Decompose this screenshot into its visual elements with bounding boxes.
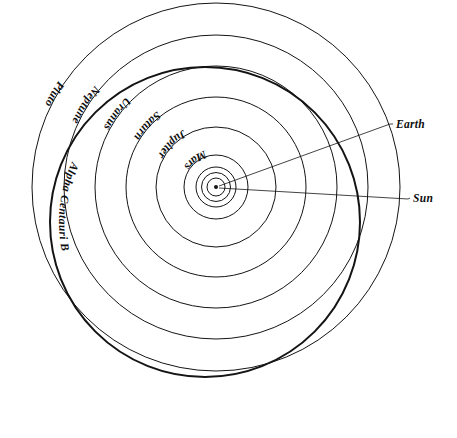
orbit-diagram: MarsJupiterSaturnUranusNeptunePlutoAlpha… — [0, 0, 457, 438]
earth-callout-label: Earth — [395, 118, 425, 130]
orbit-label-alpha-centauri-b: Alpha Centauri B — [57, 160, 82, 252]
orbit-label-neptune: Neptune — [70, 83, 103, 126]
sun-callout-label: Sun — [413, 192, 433, 204]
alpha-centauri-b-orbit — [50, 67, 360, 377]
orbit-canvas: MarsJupiterSaturnUranusNeptunePlutoAlpha… — [0, 0, 457, 438]
sun-marker-group — [214, 185, 218, 189]
sun-dot-icon — [214, 185, 218, 189]
orbit-label-pluto: Pluto — [43, 80, 67, 110]
sun-callout-tick — [408, 198, 410, 199]
alpha-centauri-group — [50, 67, 360, 377]
orbit-label-jupiter: Jupiter — [156, 128, 189, 162]
orbit-label-mars: Mars — [182, 148, 210, 173]
orbit-label-saturn: Saturn — [132, 110, 163, 143]
